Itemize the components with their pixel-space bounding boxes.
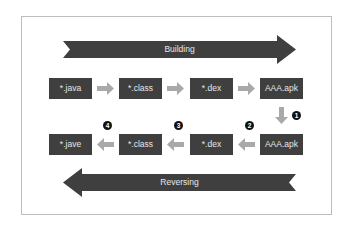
step-badge-2: 2 [245,121,254,130]
build-box-class: *.class [119,78,162,99]
left-arrow-icon [97,138,114,151]
left-arrow-icon [167,138,184,151]
reversing-arrow: Reversing [63,168,296,197]
build-box-java: *.java [49,78,92,99]
building-arrow: Building [63,35,296,64]
build-box-apk: AAA.apk [260,78,303,99]
right-arrow-icon [167,82,184,95]
reverse-box-apk: AAA.apk [260,134,303,155]
reversing-label: Reversing [63,168,296,197]
step-badge-3: 3 [174,121,183,130]
down-arrow-icon [275,107,288,124]
right-arrow-icon [97,82,114,95]
building-label: Building [63,35,296,64]
reverse-box-dex: *.dex [190,134,233,155]
build-box-dex: *.dex [190,78,233,99]
left-arrow-icon [238,138,255,151]
step-badge-1: 1 [292,111,301,120]
right-arrow-icon [238,82,255,95]
reverse-box-jave: *.jave [49,134,92,155]
reverse-box-class: *.class [119,134,162,155]
step-badge-4: 4 [103,121,112,130]
